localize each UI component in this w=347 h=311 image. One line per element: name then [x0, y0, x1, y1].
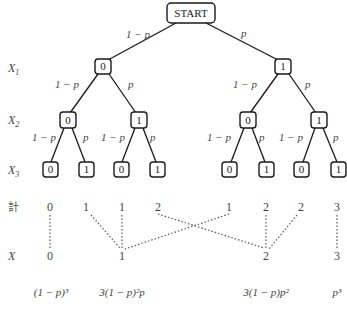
sum-row-label: 計: [8, 200, 19, 214]
node-x3-6: 0: [299, 163, 305, 175]
node-x3-1: 1: [84, 163, 90, 175]
edge-label-fail: 1 − p: [233, 78, 257, 90]
edge-label-fail: 1 − p: [207, 131, 231, 143]
sum-value: 2: [263, 200, 269, 214]
node-x3-4: 0: [227, 163, 233, 175]
node-x2-0: 0: [65, 114, 71, 126]
edge-label-success: p: [82, 131, 89, 143]
map-2a-to-2: [158, 214, 264, 248]
level-label-x3: X3: [7, 163, 19, 179]
x-value: 2: [263, 249, 269, 263]
map-2c-to-2: [269, 215, 297, 249]
node-x3-2: 0: [119, 163, 125, 175]
edge-label-fail: 1 − p: [279, 131, 303, 143]
edge-label-success: p: [258, 131, 265, 143]
node-x1-1: 1: [280, 60, 286, 72]
probability-x2: 3(1 − p)p²: [242, 286, 289, 299]
x-value: 3: [334, 249, 340, 263]
node-start: START: [167, 3, 215, 23]
x-value: 0: [47, 249, 53, 263]
sum-value: 0: [47, 200, 53, 214]
x-row-label: X: [7, 249, 16, 263]
probability-tree-diagram: 1 − p p 1 − p p 1 − p p 1 − p p 1 − p p …: [0, 0, 347, 311]
edge-label-fail: 1 − p: [55, 78, 79, 90]
edge-x2-2-x3-0: [231, 128, 244, 162]
probability-row: (1 − p)³ 3(1 − p)²p 3(1 − p)p² p³: [34, 286, 342, 299]
level-label-x2: X2: [7, 113, 19, 129]
sum-value: 1: [83, 200, 89, 214]
node-x2-1: 1: [136, 114, 142, 126]
node-x3-5: 1: [264, 163, 270, 175]
sum-value: 2: [298, 200, 304, 214]
x-value: 1: [119, 249, 125, 263]
edge-labels: 1 − p p 1 − p p 1 − p p 1 − p p 1 − p p …: [32, 27, 339, 143]
level-x1-nodes: 0 1: [95, 59, 291, 74]
sum-value: 1: [119, 200, 125, 214]
node-x3-0: 0: [48, 163, 54, 175]
x-row: X 0 1 2 3: [7, 249, 340, 263]
sum-value: 1: [226, 200, 232, 214]
edge-label-success: p: [304, 78, 311, 90]
level-labels: X1 X2 X3: [7, 61, 19, 179]
level-x2-nodes: 0 1 0 1: [60, 112, 327, 128]
level-label-x1: X1: [7, 61, 19, 77]
edge-x2-3-x3-0: [303, 128, 315, 162]
probability-x0: (1 − p)³: [34, 286, 69, 299]
map-1c-to-1: [125, 214, 229, 249]
node-x1-0: 0: [100, 60, 106, 72]
edge-label-success: p: [127, 78, 134, 90]
sum-value: 3: [334, 200, 340, 214]
edge-label-fail: 1 − p: [101, 131, 125, 143]
probability-x1: 3(1 − p)²p: [98, 286, 145, 299]
edge-label-success: p: [332, 131, 339, 143]
sum-row: 計 0 1 1 2 1 2 2 3: [8, 200, 340, 214]
map-1a-to-1: [91, 215, 120, 248]
mapping-lines: [50, 214, 337, 249]
edge-label-success: p: [240, 27, 247, 39]
level-x3-nodes: 0 1 0 1 0 1 0 1: [43, 162, 346, 177]
sum-value: 2: [155, 200, 161, 214]
edge-label-fail: 1 − p: [126, 28, 150, 40]
node-x3-7: 1: [336, 163, 342, 175]
node-x3-3: 1: [155, 163, 161, 175]
edge-x1-1-x2-1: [289, 74, 316, 113]
edge-label-success: p: [149, 131, 156, 143]
edge-label-fail: 1 − p: [32, 131, 56, 143]
probability-x3: p³: [332, 286, 343, 298]
node-x2-3: 1: [316, 114, 322, 126]
node-start-label: START: [174, 7, 208, 19]
node-x2-2: 0: [245, 114, 251, 126]
